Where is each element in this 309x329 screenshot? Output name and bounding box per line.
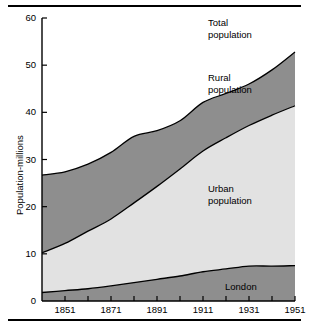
x-tick-label: 1951 (275, 305, 309, 315)
stacked-area-bands (42, 52, 295, 301)
annotation-rural-line2: population (208, 84, 252, 95)
figure-container: Population-millions 6050403020100 185118… (0, 0, 309, 329)
annotation-urban-line1: Urban (208, 183, 234, 194)
y-tick-label: 60 (14, 13, 36, 23)
x-tick-label: 1891 (137, 305, 177, 315)
annotation-rural-population: Ruralpopulation (208, 72, 252, 95)
annotation-total-line1: Total (208, 17, 228, 28)
y-tick-label: 40 (14, 107, 36, 117)
annotation-urban-line2: population (208, 195, 252, 206)
y-tick-label: 30 (14, 155, 36, 165)
x-tick-label: 1931 (229, 305, 269, 315)
x-tick-label: 1871 (91, 305, 131, 315)
area-chart-plot (0, 0, 309, 329)
y-tick-label: 0 (14, 296, 36, 306)
annotation-total-line2: population (208, 29, 252, 40)
annotation-rural-line1: Rural (208, 72, 231, 83)
annotation-total-population: Totalpopulation (208, 17, 252, 40)
annotation-london: London (225, 281, 257, 293)
y-tick-label: 10 (14, 249, 36, 259)
x-tick-label: 1911 (183, 305, 223, 315)
y-tick-label: 20 (14, 202, 36, 212)
x-tick-label: 1851 (45, 305, 85, 315)
annotation-urban-population: Urbanpopulation (208, 183, 252, 206)
y-tick-label: 50 (14, 60, 36, 70)
